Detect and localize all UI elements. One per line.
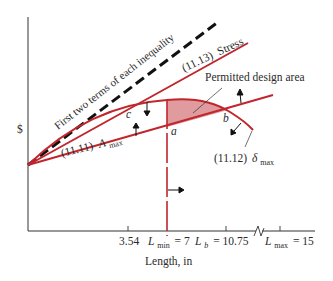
area-eq: (11.11) (60, 139, 95, 160)
tick-label-lb: L b = 10.75 (194, 235, 249, 250)
lmin-sub: min (157, 241, 169, 250)
deflection-sub: max (260, 158, 274, 167)
lmin-symbol: L (147, 235, 154, 247)
first-two-terms-line (28, 22, 218, 165)
svg-text:(11.13) Stress: (11.13) Stress (180, 35, 246, 75)
x-axis-label: Length, in (145, 255, 193, 268)
svg-text:(11.11) A max: (11.11) A max (60, 132, 124, 162)
arrowhead-icon (179, 187, 184, 193)
y-axis-label: $ (17, 123, 23, 135)
point-a-label: a (171, 125, 177, 137)
tick-label-lmax: L max = 15 (264, 235, 314, 250)
lb-value: = 10.75 (213, 235, 248, 247)
tick-label-3-54: 3.54 (119, 235, 139, 247)
point-b-label: b (223, 112, 229, 124)
design-space-diagram: $ First two terms of each inequality (11… (0, 0, 333, 281)
lmax-symbol: L (264, 235, 271, 247)
deflection-leader-line (245, 131, 252, 147)
arrowhead-icon (237, 89, 243, 95)
stress-label: (11.13) Stress (180, 35, 246, 75)
tick-label-lmin: L min = 7 (147, 235, 190, 250)
lmin-value: = 7 (175, 235, 190, 247)
lb-sub: b (204, 241, 208, 250)
permitted-region-label: Permitted design area (205, 71, 305, 84)
lmax-value: = 15 (293, 235, 314, 247)
arrow-down-left-icon (234, 123, 241, 131)
point-c-label: c (126, 108, 131, 120)
deflection-symbol: δ (252, 152, 258, 164)
deflection-eq: (11.12) (214, 152, 247, 165)
lmax-sub: max (274, 241, 288, 250)
arrowhead-icon (133, 123, 139, 128)
area-sub: max (108, 138, 124, 150)
deflection-label: (11.12) δ max (214, 152, 274, 167)
area-symbol: A (96, 136, 108, 150)
area-label: (11.11) A max (60, 132, 124, 162)
lb-symbol: L (194, 235, 201, 247)
arrowhead-icon (144, 111, 150, 116)
